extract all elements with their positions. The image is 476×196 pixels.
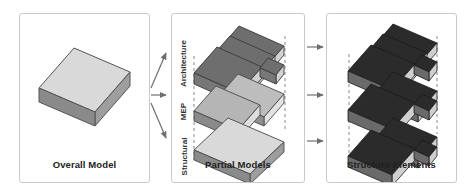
panel-caption-overall-model: Overall Model — [20, 159, 149, 170]
overall-model-isometric-slab — [20, 14, 149, 182]
element-level-bottom — [348, 118, 437, 182]
panel-partial-models: Architecture MEP Structural — [171, 13, 305, 183]
layer-structural-slab — [194, 118, 284, 182]
structure-elements-exploded-stack — [327, 14, 456, 182]
panel-caption-partial-models: Partial Models — [172, 159, 304, 170]
arrow-group-partial-to-structure — [305, 13, 327, 183]
arrow-to-architecture — [151, 53, 166, 88]
arrow-to-structural — [151, 103, 166, 138]
panel-structure-elements: Structure Elements — [326, 13, 457, 183]
partial-models-exploded-stack — [172, 14, 304, 182]
panel-overall-model: Overall Model — [19, 13, 150, 183]
diagram-canvas: Overall Model Architecture MEP Structura… — [0, 0, 476, 196]
panel-caption-structure-elements: Structure Elements — [327, 159, 456, 170]
arrow-group-overall-to-partial — [150, 13, 172, 183]
